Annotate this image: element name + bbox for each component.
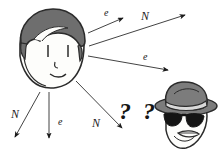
eavesdropper-character [0, 0, 220, 151]
question-marks: ? ? [119, 99, 158, 123]
arrow-downright-n-label: N [92, 117, 100, 129]
arrow-down-e-label: e [58, 117, 62, 127]
arrow-up-n-label: N [141, 10, 149, 22]
arrow-downleft-n-label: N [11, 108, 19, 120]
figure-canvas: ? ? eNeNeN [0, 0, 220, 151]
arrow-right-e-label: e [143, 52, 147, 62]
detective-head-group [155, 82, 217, 148]
arrow-up-e-label: e [104, 8, 108, 18]
